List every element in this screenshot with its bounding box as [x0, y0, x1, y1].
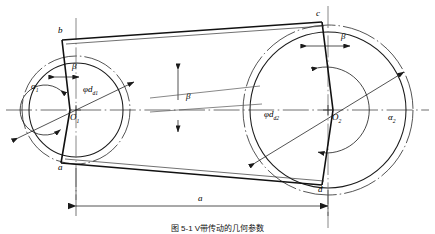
label-point-b: b [58, 26, 63, 35]
center-beta-indicator [150, 70, 262, 132]
label-center-right: O2 [332, 113, 341, 124]
figure-caption: 图 5-1 V带传动的几何参数 [0, 223, 435, 234]
label-point-a: a [58, 163, 63, 172]
alpha2-index: 2 [393, 118, 396, 124]
center-left-index: 1 [77, 118, 80, 124]
belt-drive-diagram [0, 0, 435, 234]
figure-canvas: b a c d O1 O2 α1 α2 β β β φdd1 φdd2 a 图 … [0, 0, 435, 234]
label-wrap-angle-right: α2 [388, 113, 396, 124]
belt-spans [61, 22, 324, 185]
phi-dd2-index: d2 [273, 115, 279, 121]
label-center-distance: a [198, 194, 203, 203]
center-beta-ray-b [150, 104, 262, 112]
label-beta-right: β [341, 32, 345, 41]
alpha1-index: 1 [36, 87, 39, 93]
phi-dd1-index: d1 [92, 90, 98, 96]
left-rim-face [61, 40, 70, 163]
label-diameter-left: φdd1 [83, 85, 98, 96]
center-right-index: 2 [339, 118, 342, 124]
belt-upper-span-inner [66, 26, 324, 44]
label-point-c: c [316, 9, 320, 18]
label-point-d: d [318, 185, 323, 194]
label-beta-left: β [72, 62, 76, 71]
label-diameter-right: φdd2 [264, 110, 279, 121]
label-beta-center: β [186, 92, 190, 101]
center-beta-ray-a [150, 86, 260, 98]
label-wrap-angle-left: α1 [31, 82, 39, 93]
belt-upper-span [62, 22, 322, 40]
belt-lower-span-inner [65, 159, 324, 181]
right-rim-face [322, 22, 333, 185]
label-center-left: O1 [70, 113, 79, 124]
